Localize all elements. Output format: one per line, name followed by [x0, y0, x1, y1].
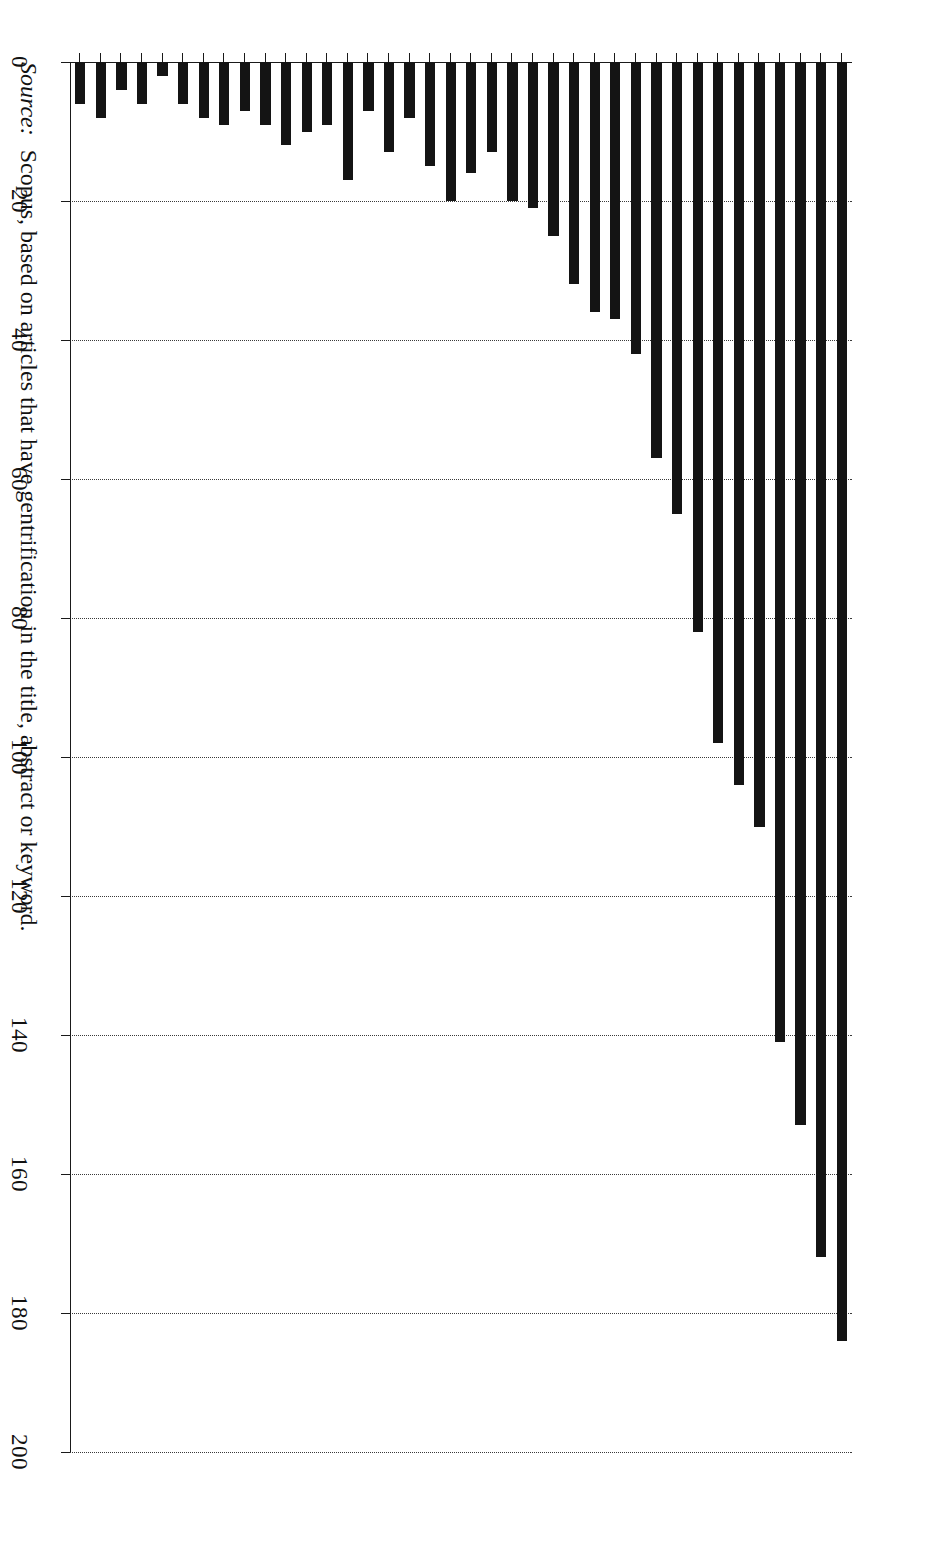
- category-tick: [265, 53, 266, 62]
- category-tick: [635, 53, 636, 62]
- bar: [178, 62, 188, 104]
- bar-row: 2012: [754, 62, 764, 1452]
- bar-row: 2006: [631, 62, 641, 1452]
- bar: [816, 62, 826, 1257]
- bar-row: 2000: [507, 62, 517, 1452]
- category-tick: [470, 53, 471, 62]
- category-tick: [820, 53, 821, 62]
- category-tick: [758, 53, 759, 62]
- rotated-figure-stage: 2016201520142013201220112010200920082007…: [0, 0, 947, 1553]
- bar-row: 2001: [528, 62, 538, 1452]
- bar-row: 1983: [157, 62, 167, 1452]
- bar-series: 2016201520142013201220112010200920082007…: [70, 62, 852, 1452]
- axis-tick: [61, 896, 70, 897]
- category-tick: [285, 53, 286, 62]
- bar-row: 1985: [199, 62, 209, 1452]
- bar-row: 1979: [75, 62, 85, 1452]
- axis-tick: [61, 62, 70, 63]
- category-tick: [717, 53, 718, 62]
- bar: [157, 62, 167, 76]
- bar: [775, 62, 785, 1042]
- bar: [631, 62, 641, 354]
- plot-area: 2016201520142013201220112010200920082007…: [70, 62, 852, 1452]
- bar-row: 2004: [590, 62, 600, 1452]
- bar-row: 1999: [487, 62, 497, 1452]
- bar: [219, 62, 229, 125]
- category-tick: [100, 53, 101, 62]
- category-tick: [326, 53, 327, 62]
- bar: [672, 62, 682, 514]
- category-tick: [594, 53, 595, 62]
- category-tick: [120, 53, 121, 62]
- axis-tick: [61, 1313, 70, 1314]
- axis-tick: [61, 1035, 70, 1036]
- category-tick: [738, 53, 739, 62]
- bar: [404, 62, 414, 118]
- bar: [446, 62, 456, 201]
- axis-tick: [61, 757, 70, 758]
- bar: [590, 62, 600, 312]
- bar-row: 1981: [116, 62, 126, 1452]
- source-text: Scopus, based on articles that have gent…: [16, 150, 42, 932]
- bar: [713, 62, 723, 743]
- value-axis-line: [70, 62, 71, 1452]
- category-tick: [450, 53, 451, 62]
- bar-row: 1986: [219, 62, 229, 1452]
- category-tick: [573, 53, 574, 62]
- bar: [425, 62, 435, 166]
- bar: [199, 62, 209, 118]
- bar-row: 1988: [260, 62, 270, 1452]
- category-tick: [697, 53, 698, 62]
- category-tick: [409, 53, 410, 62]
- bar: [116, 62, 126, 90]
- category-tick: [162, 53, 163, 62]
- bar-row: 1990: [302, 62, 312, 1452]
- bar-row: 1989: [281, 62, 291, 1452]
- category-tick: [388, 53, 389, 62]
- x-tick-label: 140: [6, 1017, 32, 1053]
- bar-row: 1993: [363, 62, 373, 1452]
- bar: [795, 62, 805, 1125]
- bar-row: 2003: [569, 62, 579, 1452]
- bar-row: 1995: [404, 62, 414, 1452]
- bar-row: 1991: [322, 62, 332, 1452]
- bar: [281, 62, 291, 145]
- bar-row: 1997: [446, 62, 456, 1452]
- bar: [734, 62, 744, 785]
- bar: [322, 62, 332, 125]
- category-tick: [367, 53, 368, 62]
- bar: [487, 62, 497, 152]
- source-label: Source:: [16, 62, 42, 136]
- bar: [528, 62, 538, 208]
- bar: [651, 62, 661, 458]
- category-tick: [429, 53, 430, 62]
- bar-row: 2016: [837, 62, 847, 1452]
- bar: [343, 62, 353, 180]
- category-tick: [141, 53, 142, 62]
- category-tick: [676, 53, 677, 62]
- gridline: [70, 1452, 852, 1453]
- bar-row: 1982: [137, 62, 147, 1452]
- bar-row: 2010: [713, 62, 723, 1452]
- category-tick: [203, 53, 204, 62]
- axis-tick: [61, 618, 70, 619]
- category-tick: [779, 53, 780, 62]
- bar-row: 2007: [651, 62, 661, 1452]
- bar-row: 1992: [343, 62, 353, 1452]
- bar-row: 2014: [795, 62, 805, 1452]
- bar: [693, 62, 703, 632]
- bar: [754, 62, 764, 827]
- category-tick: [800, 53, 801, 62]
- axis-tick: [61, 479, 70, 480]
- category-tick: [306, 53, 307, 62]
- axis-tick: [61, 1174, 70, 1175]
- category-tick: [511, 53, 512, 62]
- bar-row: 1994: [384, 62, 394, 1452]
- category-tick: [553, 53, 554, 62]
- bar-row: 1987: [240, 62, 250, 1452]
- bar: [548, 62, 558, 236]
- bar-row: 2013: [775, 62, 785, 1452]
- bar: [569, 62, 579, 284]
- bar: [384, 62, 394, 152]
- x-tick-label: 180: [6, 1295, 32, 1331]
